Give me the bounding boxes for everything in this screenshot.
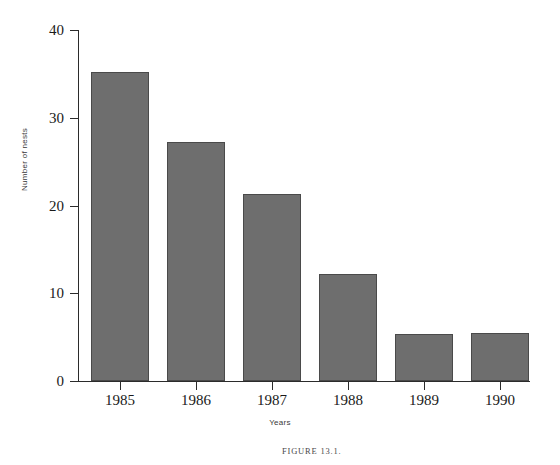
bar-1985 (91, 72, 149, 381)
x-tick-label-1988: 1988 (308, 393, 388, 408)
x-tick-label-1987: 1987 (232, 393, 312, 408)
x-tick-1990 (500, 382, 501, 390)
bar-1989 (395, 334, 453, 381)
y-tick-label-10: 10 (24, 286, 64, 301)
bar-1987 (243, 194, 301, 381)
y-tick-label-20: 20 (24, 199, 64, 214)
bar-1990 (471, 333, 529, 381)
y-axis-title: Number of nests (20, 90, 29, 230)
y-tick-0 (70, 381, 78, 382)
x-tick-label-1986: 1986 (156, 393, 236, 408)
figure-caption: FIGURE 13.1. (282, 446, 341, 456)
x-tick-1989 (424, 382, 425, 390)
x-axis-title: Years (0, 418, 560, 427)
y-tick-label-0: 0 (24, 374, 64, 389)
y-axis-spine (78, 30, 79, 382)
y-tick-40 (70, 30, 78, 31)
y-tick-30 (70, 118, 78, 119)
y-tick-20 (70, 206, 78, 207)
x-tick-1985 (120, 382, 121, 390)
x-tick-label-1989: 1989 (384, 393, 464, 408)
y-tick-label-30: 30 (24, 111, 64, 126)
x-tick-1988 (348, 382, 349, 390)
y-tick-label-40: 40 (24, 23, 64, 38)
x-tick-label-1985: 1985 (80, 393, 160, 408)
y-tick-10 (70, 293, 78, 294)
x-axis-spine (78, 381, 530, 382)
bar-1988 (319, 274, 377, 381)
bar-1986 (167, 142, 225, 381)
x-tick-1986 (196, 382, 197, 390)
x-tick-label-1990: 1990 (460, 393, 540, 408)
figure-root: 40 30 20 10 0 1985 1986 1987 1988 1989 1… (0, 0, 560, 465)
x-tick-1987 (272, 382, 273, 390)
